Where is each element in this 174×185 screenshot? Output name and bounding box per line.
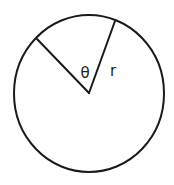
radius-line-right: [89, 21, 115, 93]
radius-label: r: [110, 62, 117, 80]
angle-label: θ: [80, 64, 89, 82]
circle-diagram: θ r: [0, 0, 174, 185]
